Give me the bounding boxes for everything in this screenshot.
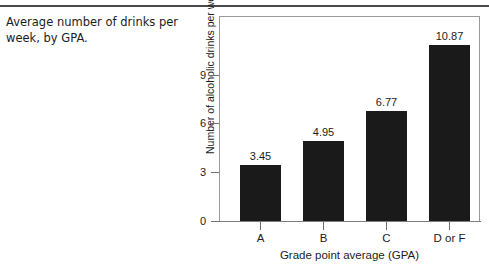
y-tick-label-9: 9 — [192, 69, 206, 81]
x-axis-title: Grade point average (GPA) — [219, 249, 480, 261]
figure-caption: Average number of drinks per week, by GP… — [6, 14, 186, 46]
y-tick-mark-6 — [211, 123, 219, 124]
bar-d-or-f[interactable] — [429, 45, 470, 221]
y-tick-mark-3 — [211, 172, 219, 173]
x-axis-baseline — [219, 221, 481, 222]
x-tick-label-c: C — [361, 232, 412, 244]
y-tick-label-0: 0 — [192, 215, 206, 227]
y-tick-label-3: 3 — [192, 166, 206, 178]
x-tick-mark-a — [260, 222, 261, 230]
y-axis-line — [219, 16, 220, 222]
figure-page: Average number of drinks per week, by GP… — [0, 0, 489, 267]
x-tick-mark-b — [323, 222, 324, 230]
y-tick-mark-0 — [211, 221, 219, 222]
x-tick-mark-c — [386, 222, 387, 230]
bar-value-c: 6.77 — [361, 96, 412, 108]
bar-value-b: 4.95 — [298, 126, 349, 138]
bar-a[interactable] — [240, 165, 281, 221]
top-divider-rule — [0, 5, 489, 7]
caption-line-2: week, by GPA. — [6, 30, 186, 46]
x-tick-label-d-or-f: D or F — [424, 232, 475, 244]
bar-b[interactable] — [303, 141, 344, 221]
bar-value-d-or-f: 10.87 — [424, 30, 475, 42]
bar-chart: Number of alcoholic drinks per week 0 3 … — [186, 10, 486, 267]
y-tick-label-6: 6 — [192, 117, 206, 129]
bar-value-a: 3.45 — [235, 150, 286, 162]
x-tick-label-a: A — [235, 232, 286, 244]
bar-c[interactable] — [366, 111, 407, 221]
caption-line-1: Average number of drinks per — [6, 14, 186, 30]
y-tick-mark-9 — [211, 75, 219, 76]
x-tick-label-b: B — [298, 232, 349, 244]
x-tick-mark-d-or-f — [449, 222, 450, 230]
